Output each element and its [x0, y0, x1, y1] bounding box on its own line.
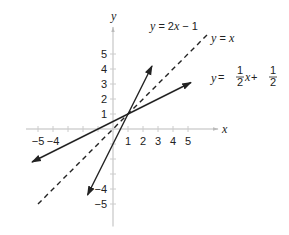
equation-part: x	[244, 70, 251, 84]
series-line-0	[88, 66, 153, 195]
equation-part: =	[218, 71, 224, 83]
equation-label-half-x-plus-half: y = 12x + 12	[210, 64, 277, 88]
y-tick-label: 5	[101, 48, 107, 60]
y-tick-label: −5	[94, 198, 107, 210]
y-tick-label: 2	[101, 93, 107, 105]
x-tick-label: 1	[125, 135, 131, 147]
lines	[32, 33, 209, 204]
y-tick-label: 3	[101, 78, 107, 90]
equation-part: 1	[237, 64, 243, 76]
equation-part: 2	[237, 76, 243, 88]
equation-part: +	[251, 71, 257, 83]
x-tick-label: 5	[185, 135, 191, 147]
y-tick-label: 4	[101, 63, 107, 75]
equation-label-y-equals-x: y = x	[210, 31, 235, 45]
labels: x y y = 2x − 1y = xy = 12x + 12	[110, 9, 277, 136]
equation-part: 1	[270, 64, 276, 76]
x-tick-label: 3	[155, 135, 161, 147]
x-tick-label: −5	[32, 135, 45, 147]
series-line-2	[32, 83, 191, 163]
equation-part: y	[210, 71, 217, 85]
series-line-1	[38, 33, 209, 204]
equation-label-2x-minus-1: y = 2x − 1	[149, 19, 198, 33]
equation-part: 2	[270, 76, 276, 88]
y-tick-label: −4	[94, 183, 107, 195]
y-axis-label: y	[110, 9, 117, 23]
y-tick-label: 1	[101, 108, 107, 120]
x-tick-label: 2	[140, 135, 146, 147]
x-axis-label: x	[221, 122, 228, 136]
graph: −5−412345−5−412345 x y y = 2x − 1y = xy …	[0, 0, 289, 235]
x-tick-label: 4	[170, 135, 176, 147]
x-tick-label: −4	[47, 135, 60, 147]
